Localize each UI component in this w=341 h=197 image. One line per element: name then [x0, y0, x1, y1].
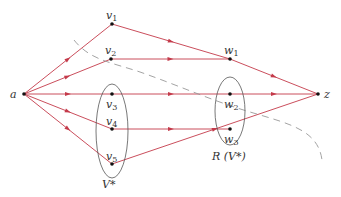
node-w1 — [228, 57, 232, 61]
node-z — [316, 92, 320, 96]
arrow-icon — [64, 109, 71, 115]
node-label-z: z — [323, 88, 330, 101]
edges — [24, 24, 318, 164]
node-label-w1: w1 — [224, 44, 239, 58]
node-label-v4: v4 — [106, 115, 117, 129]
arrow-icon — [65, 92, 71, 96]
r-v-star-label: R (V*) — [211, 150, 246, 163]
node-label-w3: w3 — [224, 133, 239, 147]
node-label-v3: v3 — [106, 98, 117, 112]
node-label-w2: w2 — [224, 98, 239, 112]
node-label-v2: v2 — [105, 44, 116, 58]
arrow-icon — [168, 57, 174, 61]
arrow-icon — [168, 127, 174, 131]
arrow-icon — [270, 74, 277, 80]
nodes: av1v2v3v4v5w1w2w3z — [10, 9, 330, 166]
node-label-v5: v5 — [106, 150, 117, 164]
node-label-v1: v1 — [106, 9, 117, 23]
node-v3 — [110, 92, 114, 96]
node-w2 — [228, 92, 232, 96]
node-label-a: a — [10, 88, 17, 101]
arrow-icon — [168, 39, 175, 45]
node-w3 — [228, 127, 232, 131]
arrow-icon — [271, 92, 277, 96]
node-a — [22, 92, 26, 96]
arrow-icon — [64, 74, 71, 80]
v-star-label: V* — [102, 178, 116, 191]
graph-diagram: av1v2v3v4v5w1w2w3z V* R (V*) — [0, 0, 341, 197]
arrow-icon — [168, 92, 174, 96]
